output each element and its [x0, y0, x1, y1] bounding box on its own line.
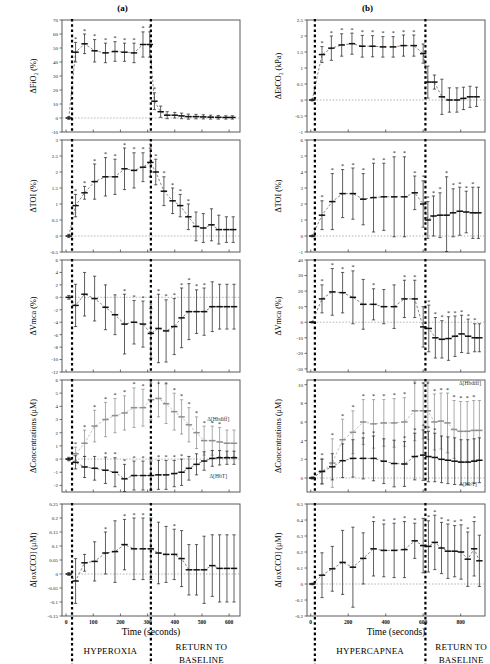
series-annotation: Δ[Hbdiff]	[459, 380, 481, 386]
significance-star: *	[320, 278, 323, 284]
significance-star: *	[173, 454, 176, 460]
y-tick-label: -4	[54, 320, 59, 325]
significance-star: *	[466, 526, 469, 532]
significance-star: *	[93, 158, 96, 164]
series-annotation: Δ[HbT]	[459, 481, 477, 487]
y-tick-label: 2	[56, 431, 59, 436]
significance-star: *	[341, 266, 344, 272]
y-tick-label: -20	[296, 351, 303, 356]
y-tick-label: 2	[56, 170, 59, 175]
y-tick-label: 0	[301, 320, 304, 325]
significance-star: *	[427, 514, 430, 520]
x-tick-label: 400	[381, 619, 390, 625]
significance-star: *	[331, 432, 334, 438]
figure-root: (a) -10010203040506070ΔFiO₂ (%)*********…	[0, 0, 490, 664]
significance-star: *	[427, 299, 430, 305]
significance-star: *	[203, 420, 206, 426]
chart-b3: -30-20-10010203040ΔVmca (%)*************…	[274, 258, 485, 373]
panel-b-label: (b)	[245, 0, 490, 16]
significance-star: *	[447, 310, 450, 316]
y-tick-label: 4	[301, 170, 304, 175]
significance-star: *	[422, 381, 425, 387]
significance-star: *	[173, 523, 176, 529]
panel-b-column: (b) -1-0.500.511.522.5ΔEtCO₂ (kPa)******…	[245, 0, 490, 664]
significance-star: *	[123, 458, 126, 464]
significance-star: *	[153, 86, 156, 92]
significance-star: *	[393, 392, 396, 398]
x-tick-label: 600	[225, 619, 234, 625]
phase-label-right-line2: BASELINE	[179, 655, 224, 664]
x-axis-title: Time (seconds)	[367, 627, 426, 638]
y-tick-label: 0.2	[297, 550, 304, 555]
y-tick-label: 40	[298, 258, 304, 263]
significance-star: *	[473, 317, 476, 323]
significance-star: *	[133, 146, 136, 152]
y-tick-label: -30	[296, 367, 303, 372]
significance-star: *	[432, 190, 435, 196]
significance-star: *	[413, 427, 416, 433]
significance-star: *	[180, 453, 183, 459]
y-tick-label: 50	[53, 46, 59, 51]
significance-star: *	[372, 430, 375, 436]
chart-a4: -2-10123456ΔConcentrations (μM)*********…	[29, 378, 240, 493]
significance-star: *	[187, 198, 190, 204]
significance-star: *	[465, 185, 468, 191]
y-tick-label: 1	[301, 66, 304, 71]
significance-star: *	[187, 401, 190, 407]
y-tick-label: 0.3	[297, 534, 304, 539]
y-tick-label: 2	[301, 34, 304, 39]
y-tick-label: 0.5	[52, 218, 59, 223]
significance-star: *	[454, 310, 457, 316]
significance-star: *	[173, 387, 176, 393]
significance-star: *	[93, 404, 96, 410]
significance-star: *	[320, 194, 323, 200]
significance-star: *	[351, 404, 354, 410]
y-tick-label: -1	[299, 130, 304, 135]
significance-star: *	[362, 393, 365, 399]
significance-star: *	[180, 282, 183, 288]
significance-star: *	[165, 293, 168, 299]
significance-star: *	[141, 512, 144, 518]
significance-star: *	[133, 455, 136, 461]
significance-star: *	[403, 274, 406, 280]
significance-star: *	[422, 423, 425, 429]
significance-star: *	[162, 170, 165, 176]
y-tick-label: 10	[53, 102, 59, 107]
significance-star: *	[413, 170, 416, 176]
significance-star: *	[433, 427, 436, 433]
y-tick-label: 1	[56, 444, 59, 449]
chart-b4: 0246810ΔConcentrations (μM)*************…	[274, 379, 485, 493]
significance-star: *	[173, 292, 176, 298]
y-tick-label: 2	[301, 202, 304, 207]
y-tick-label: 6	[301, 420, 304, 425]
panel-a-label: (a)	[0, 0, 245, 16]
y-tick-label: 5	[301, 154, 304, 159]
y-tick-label: 2	[301, 457, 304, 462]
y-tick-label: 6	[56, 378, 59, 383]
y-tick-label: 0	[301, 98, 304, 103]
significance-star: *	[459, 395, 462, 401]
significance-star: *	[123, 142, 126, 148]
significance-star: *	[187, 277, 190, 283]
significance-star: *	[460, 309, 463, 315]
significance-star: *	[331, 167, 334, 173]
significance-star: *	[473, 515, 476, 521]
significance-star: *	[83, 28, 86, 34]
significance-star: *	[372, 393, 375, 399]
chart-a1: -10010203040506070ΔFiO₂ (%)**********	[29, 18, 240, 135]
y-tick-label: -0.2	[295, 614, 303, 619]
y-tick-label: 0.2	[52, 516, 59, 521]
y-tick-label: 0.5	[297, 82, 304, 87]
x-tick-label: 0	[309, 619, 312, 625]
significance-star: *	[453, 394, 456, 400]
plot-frame	[307, 260, 485, 372]
y-tick-label: 1	[56, 202, 59, 207]
significance-star: *	[439, 387, 442, 393]
panel-b-plots: -1-0.500.511.522.5ΔEtCO₂ (kPa)**********…	[245, 16, 490, 664]
chart-b5: -0.2-0.100.10.20.30.40.50200400600800Δ[o…	[274, 502, 485, 625]
y-axis-title: ΔConcentrations (μM)	[274, 399, 283, 473]
y-tick-label: 0	[301, 476, 304, 481]
significance-star: *	[466, 395, 469, 401]
y-tick-label: 0.15	[49, 530, 58, 535]
significance-star: *	[74, 188, 77, 194]
